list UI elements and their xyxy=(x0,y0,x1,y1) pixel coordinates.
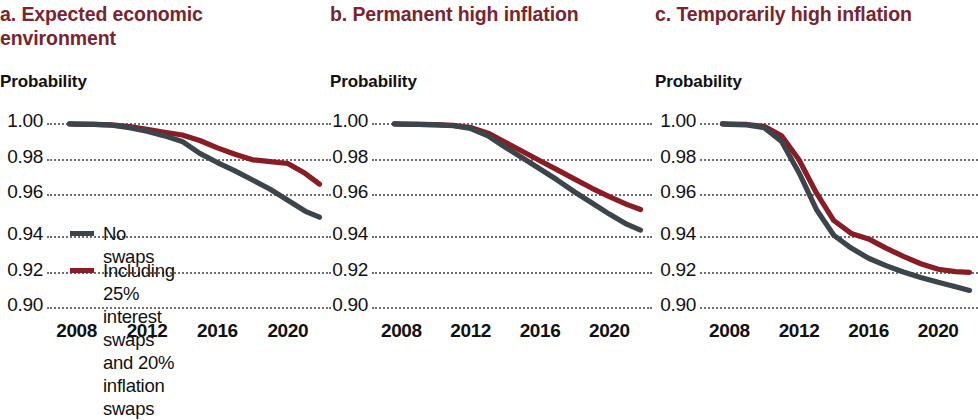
legend-swatch-icon xyxy=(70,268,94,273)
legend-swatch-icon xyxy=(70,231,94,236)
panel-c-temporarily-high-inflation: c. Temporarily high inflation Probabilit… xyxy=(655,0,978,351)
series-line-with-swaps xyxy=(394,124,640,210)
panel-b-plot-area: 1.000.980.960.940.920.902008201220162020 xyxy=(330,0,658,351)
panel-a-plot-area: 1.000.980.960.940.920.902008201220162020… xyxy=(0,0,340,351)
series-canvas xyxy=(655,0,978,351)
series-line-with-swaps xyxy=(70,124,320,184)
series-canvas xyxy=(330,0,658,351)
series-line-no-swaps xyxy=(394,124,640,230)
legend-label: Including 25% interest swaps and 20% inf… xyxy=(103,259,175,420)
panel-a-expected-economic-environment: a. Expected economic environment Probabi… xyxy=(0,0,340,351)
panel-b-permanent-high-inflation: b. Permanent high inflation Probability … xyxy=(330,0,658,351)
series-line-with-swaps xyxy=(722,124,969,272)
legend-item-with-swaps: Including 25% interest swaps and 20% inf… xyxy=(70,259,175,420)
panel-c-plot-area: 1.000.980.960.940.920.902008201220162020 xyxy=(655,0,978,351)
